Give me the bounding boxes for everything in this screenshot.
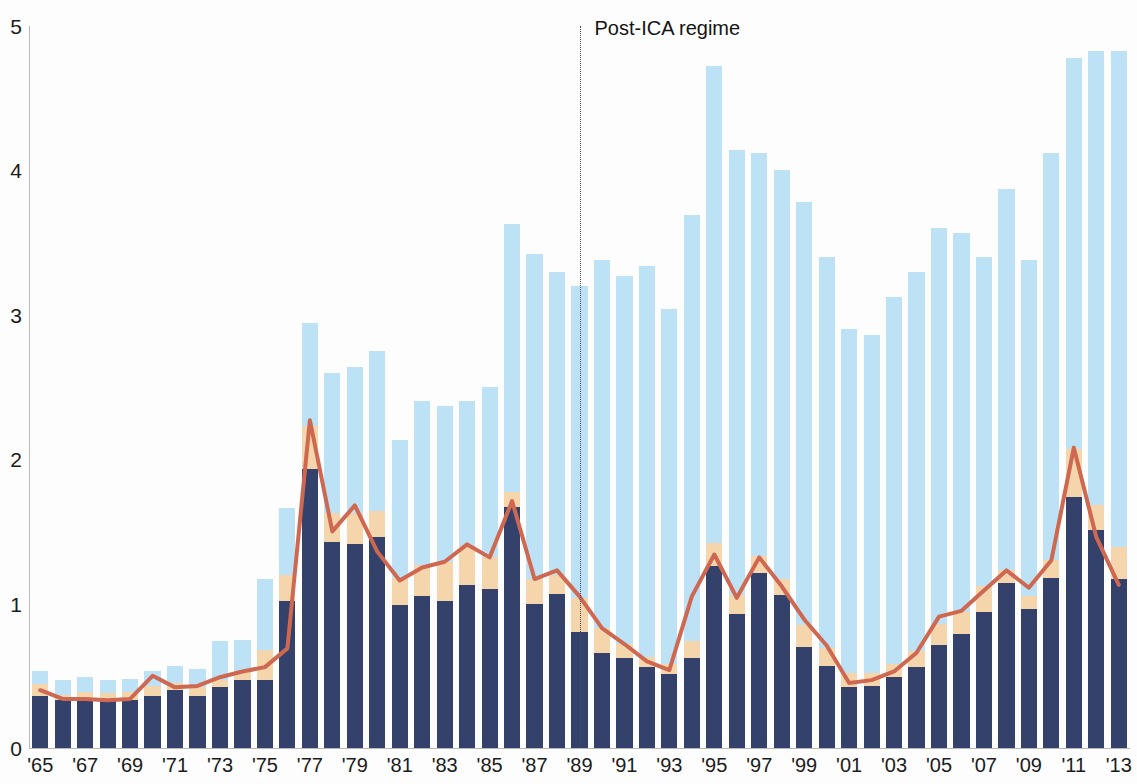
bar-1984 <box>459 26 475 748</box>
x-tick-1987: '87 <box>522 755 548 775</box>
x-tick-2005: '05 <box>926 755 952 775</box>
y-tick-3: 3 <box>2 304 22 325</box>
bar-segment-mid-segment <box>931 624 947 646</box>
bar-segment-mid-segment <box>234 671 250 680</box>
bar-segment-base-segment <box>302 469 318 748</box>
bar-segment-top-segment <box>77 677 93 691</box>
bar-segment-mid-segment <box>886 664 902 677</box>
bar-segment-top-segment <box>1021 260 1037 596</box>
bar-segment-mid-segment <box>549 575 565 594</box>
bar-segment-top-segment <box>347 367 363 513</box>
bar-segment-top-segment <box>931 228 947 624</box>
x-tick-2001: '01 <box>836 755 862 775</box>
bar-1981 <box>392 26 408 748</box>
x-tick-1973: '73 <box>207 755 233 775</box>
bar-segment-mid-segment <box>819 648 835 665</box>
bar-segment-base-segment <box>234 680 250 748</box>
bar-segment-top-segment <box>1088 51 1104 506</box>
bar-segment-mid-segment <box>414 565 430 597</box>
bar-1970 <box>144 26 160 748</box>
bar-segment-base-segment <box>774 595 790 748</box>
bar-segment-top-segment <box>482 387 498 557</box>
bar-1996 <box>729 26 745 748</box>
bar-segment-top-segment <box>661 309 677 664</box>
bar-1999 <box>796 26 812 748</box>
bar-2003 <box>886 26 902 748</box>
bar-segment-base-segment <box>100 700 116 748</box>
bar-segment-mid-segment <box>1021 596 1037 609</box>
bar-segment-base-segment <box>549 594 565 749</box>
bar-segment-mid-segment <box>504 492 520 506</box>
bar-segment-base-segment <box>931 645 947 748</box>
x-tick-1969: '69 <box>117 755 143 775</box>
bar-segment-base-segment <box>324 542 340 748</box>
bar-segment-top-segment <box>684 215 700 641</box>
bar-segment-base-segment <box>504 507 520 748</box>
bar-segment-base-segment <box>482 589 498 748</box>
bar-segment-top-segment <box>1043 153 1059 560</box>
bar-segment-base-segment <box>796 647 812 748</box>
bar-2006 <box>953 26 969 748</box>
bar-segment-top-segment <box>908 272 924 652</box>
bar-segment-mid-segment <box>751 556 767 573</box>
x-tick-2003: '03 <box>881 755 907 775</box>
bar-segment-top-segment <box>841 329 857 673</box>
bar-1975 <box>257 26 273 748</box>
bar-segment-top-segment <box>369 351 385 511</box>
bar-segment-base-segment <box>864 686 880 748</box>
bar-segment-base-segment <box>526 604 542 748</box>
bar-1972 <box>189 26 205 748</box>
bar-1990 <box>594 26 610 748</box>
bar-segment-top-segment <box>616 276 632 644</box>
x-tick-1965: '65 <box>27 755 53 775</box>
bar-segment-base-segment <box>976 612 992 748</box>
bar-segment-base-segment <box>1088 530 1104 748</box>
bar-1983 <box>437 26 453 748</box>
bar-segment-base-segment <box>1043 578 1059 748</box>
bar-1993 <box>661 26 677 748</box>
bar-segment-mid-segment <box>706 543 722 566</box>
bar-segment-top-segment <box>751 153 767 556</box>
bar-segment-top-segment <box>100 680 116 693</box>
bar-segment-mid-segment <box>864 673 880 686</box>
bar-1987 <box>526 26 542 748</box>
bar-segment-top-segment <box>234 640 250 672</box>
bar-segment-base-segment <box>189 696 205 748</box>
bar-segment-top-segment <box>886 297 902 664</box>
bar-segment-base-segment <box>1111 579 1127 748</box>
bar-1978 <box>324 26 340 748</box>
bar-segment-base-segment <box>369 537 385 748</box>
x-tick-2007: '07 <box>971 755 997 775</box>
x-tick-1993: '93 <box>656 755 682 775</box>
bar-segment-top-segment <box>796 202 812 625</box>
bar-segment-top-segment <box>257 579 273 650</box>
bar-1977 <box>302 26 318 748</box>
x-tick-1995: '95 <box>701 755 727 775</box>
x-tick-1977: '77 <box>297 755 323 775</box>
y-tick-4: 4 <box>2 160 22 181</box>
bar-segment-mid-segment <box>189 687 205 696</box>
bar-segment-mid-segment <box>1066 449 1082 497</box>
bar-segment-mid-segment <box>976 586 992 612</box>
x-tick-1975: '75 <box>252 755 278 775</box>
bar-segment-base-segment <box>998 583 1014 748</box>
bar-segment-base-segment <box>144 696 160 748</box>
chart-container: 012345 '65'67'69'71'73'75'77'79'81'83'85… <box>0 0 1137 784</box>
bar-segment-top-segment <box>302 323 318 426</box>
bar-segment-mid-segment <box>684 641 700 658</box>
bar-1997 <box>751 26 767 748</box>
bar-segment-base-segment <box>751 573 767 748</box>
bar-2007 <box>976 26 992 748</box>
bar-segment-top-segment <box>976 257 992 586</box>
bar-2001 <box>841 26 857 748</box>
bar-segment-mid-segment <box>257 650 273 680</box>
bar-segment-top-segment <box>504 224 520 493</box>
bar-1998 <box>774 26 790 748</box>
bar-segment-base-segment <box>953 634 969 748</box>
bar-segment-top-segment <box>189 669 205 688</box>
bar-1994 <box>684 26 700 748</box>
bar-1992 <box>639 26 655 748</box>
bar-segment-mid-segment <box>77 692 93 701</box>
y-tick-2: 2 <box>2 449 22 470</box>
bar-segment-mid-segment <box>347 513 363 545</box>
